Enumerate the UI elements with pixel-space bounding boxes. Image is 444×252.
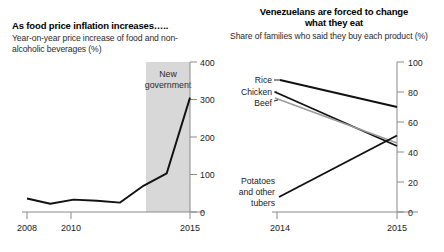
left-chart-panel: As food price inflation increases….. Yea…: [0, 0, 222, 252]
right-xlabel-2014: 2014: [270, 223, 290, 233]
left-ylabel-400: 400: [200, 58, 215, 68]
left-xlabel-2015: 2015: [180, 223, 200, 233]
right-xlabel-2015: 2015: [387, 223, 407, 233]
right-ylabel-80: 80: [408, 88, 418, 98]
series-label-beef: Beef: [254, 98, 272, 108]
share-of-families-chart: 100 80 60 40 20 0 2014 2015 Rice Chicken…: [222, 0, 444, 252]
series-label-potatoes-line3: tubers: [251, 198, 275, 208]
left-ylabel-300: 300: [200, 95, 215, 105]
left-ylabel-200: 200: [200, 133, 215, 143]
chicken-line: [275, 92, 397, 146]
beef-leader: [274, 100, 278, 101]
series-label-potatoes-line1: Potatoes: [241, 176, 275, 186]
right-ylabel-60: 60: [408, 118, 418, 128]
right-ylabel-0: 0: [408, 208, 413, 218]
food-price-inflation-chart: New government 400 300 200 100 0 2008 20…: [0, 0, 222, 252]
right-ylabel-100: 100: [408, 58, 423, 68]
potatoes-line: [279, 136, 397, 198]
left-xlabel-2008: 2008: [17, 223, 37, 233]
left-xlabel-2010: 2010: [61, 223, 81, 233]
series-label-chicken: Chicken: [241, 87, 272, 97]
left-ylabel-100: 100: [200, 170, 215, 180]
beef-line: [275, 98, 397, 143]
band-label-line2: government: [145, 80, 192, 90]
right-ylabel-40: 40: [408, 148, 418, 158]
band-label-line1: New: [159, 69, 177, 79]
right-chart-panel: Venezuelans are forced to change what th…: [222, 0, 444, 252]
right-ylabel-20: 20: [408, 178, 418, 188]
left-ylabel-0: 0: [200, 208, 205, 218]
series-label-potatoes-line2: and other: [239, 187, 275, 197]
series-label-rice: Rice: [255, 75, 272, 85]
